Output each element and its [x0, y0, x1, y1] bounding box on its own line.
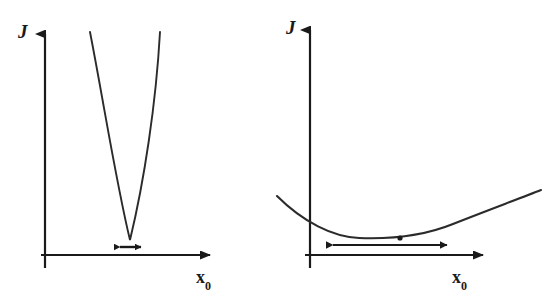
x-axis-label-left-subscript: 0	[205, 279, 211, 293]
figure-root: J x0	[0, 0, 551, 296]
y-axis-label-right: J	[286, 18, 296, 37]
x-axis-label-right-subscript: 0	[461, 279, 467, 293]
minimum-dot-marker	[397, 235, 402, 240]
x-axis-label-left-base: x	[196, 267, 205, 287]
cost-curve-narrow	[90, 32, 160, 240]
y-axis-label-left: J	[18, 22, 28, 41]
cost-curve-broad	[277, 190, 541, 238]
right-plot-canvas	[275, 0, 551, 296]
x-axis-label-right: x0	[452, 268, 467, 290]
panel-well-conditioned: J x0	[0, 0, 275, 296]
x-axis-label-left: x0	[196, 268, 211, 290]
panel-ill-conditioned: J x0	[275, 0, 551, 296]
left-plot-canvas	[0, 0, 275, 296]
x-axis-label-right-base: x	[452, 267, 461, 287]
